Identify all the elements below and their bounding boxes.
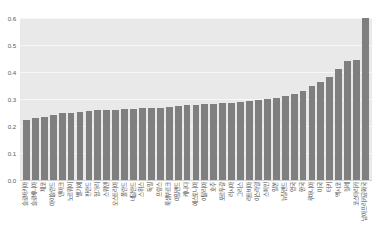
- bar: [237, 102, 244, 180]
- y-axis-tick-label: 0.1: [8, 150, 16, 157]
- bar: [201, 104, 208, 180]
- x-axis-tick-label: 러시아: [229, 182, 235, 197]
- y-axis: 0.00.10.20.30.40.50.6: [0, 18, 19, 180]
- x-axis-tick: 노르웨이: [67, 181, 76, 250]
- x-axis-tick: 이스라엘: [254, 181, 263, 250]
- x-axis-tick-label: 슬로베니아: [32, 182, 38, 206]
- x-axis-tick: 미국: [316, 181, 325, 250]
- x-axis-tick-label: 스페인: [264, 182, 270, 197]
- x-axis-tick-label: 포르투갈: [220, 182, 226, 201]
- bar: [210, 104, 217, 180]
- x-axis-tick-label: 오스트리아: [113, 182, 119, 206]
- x-axis-tick: 독일: [147, 181, 156, 250]
- x-axis-tick-label: 뉴질랜드: [282, 182, 288, 201]
- x-axis-tick: 덴마크: [58, 181, 67, 250]
- x-axis-tick: 남아프리카공화국: [361, 181, 370, 250]
- bar: [193, 105, 200, 180]
- x-axis-tick: 캐나다: [183, 181, 192, 250]
- bar: [300, 91, 307, 180]
- x-axis-tick-label: 프랑스: [157, 182, 163, 197]
- x-axis-tick: 핀란드: [84, 181, 93, 250]
- bar: [219, 103, 226, 180]
- plot-area: [20, 18, 372, 180]
- x-axis-tick: 네덜란드: [129, 181, 138, 250]
- x-axis-tick-label: 네덜란드: [131, 182, 137, 201]
- bar: [184, 105, 191, 180]
- x-axis-tick-label: 이탈리아: [202, 182, 208, 201]
- bar: [41, 117, 48, 180]
- bar: [23, 120, 30, 180]
- x-axis-tick-label: 호주: [211, 182, 217, 192]
- x-axis-tick: 영국: [290, 181, 299, 250]
- bar: [317, 82, 324, 180]
- x-axis-tick: 러시아: [227, 181, 236, 250]
- x-axis-tick: 헝가리: [93, 181, 102, 250]
- x-axis-tick-label: 아일랜드: [175, 182, 181, 201]
- x-axis-tick-label: 독일: [148, 182, 154, 192]
- x-axis: 슬로바키아슬로베니아체코아이슬란드덴마크노르웨이벨기에핀란드헝가리스웨덴오스트리…: [20, 181, 372, 250]
- x-axis-tick: 멕시코: [334, 181, 343, 250]
- y-axis-tick-label: 0.5: [8, 42, 16, 49]
- x-axis-tick-label: 칠레: [345, 182, 351, 192]
- y-axis-tick-label: 0.4: [8, 69, 16, 76]
- bar: [175, 106, 182, 180]
- x-axis-tick-label: 스위스: [139, 182, 145, 197]
- bar: [50, 115, 57, 180]
- bar: [86, 111, 93, 180]
- bar: [103, 110, 110, 180]
- x-axis-tick: 이탈리아: [200, 181, 209, 250]
- x-axis-tick: 스위스: [138, 181, 147, 250]
- x-axis-tick-label: 터키: [327, 182, 333, 192]
- y-axis-tick-label: 0.0: [8, 177, 16, 184]
- x-axis-tick-label: 이스라엘: [255, 182, 261, 201]
- x-axis-tick: 한국: [299, 181, 308, 250]
- x-axis-tick: 룩셈부르크: [165, 181, 174, 250]
- bar: [130, 109, 137, 180]
- bar: [255, 100, 262, 180]
- bar: [309, 86, 316, 181]
- bar: [139, 108, 146, 180]
- x-axis-tick-label: 영국: [291, 182, 297, 192]
- bar: [228, 103, 235, 180]
- x-axis-tick: 오스트리아: [111, 181, 120, 250]
- bar: [166, 107, 173, 180]
- bar: [273, 98, 280, 180]
- x-axis-tick-label: 노르웨이: [68, 182, 74, 201]
- bar: [32, 118, 39, 180]
- x-axis-tick-label: 룩셈부르크: [166, 182, 172, 206]
- x-axis-tick: 스페인: [263, 181, 272, 250]
- x-axis-tick-label: 슬로바키아: [24, 182, 30, 206]
- x-axis-tick: 에스토니아: [192, 181, 201, 250]
- x-axis-tick-label: 체코: [41, 182, 47, 192]
- y-axis-tick-label: 0.6: [8, 15, 16, 22]
- x-axis-tick: 일본: [272, 181, 281, 250]
- x-axis-tick: 벨기에: [76, 181, 85, 250]
- bar: [148, 108, 155, 180]
- x-axis-tick-label: 아이슬란드: [50, 182, 56, 206]
- y-axis-tick-label: 0.2: [8, 123, 16, 130]
- x-axis-tick: 뉴질랜드: [281, 181, 290, 250]
- bar: [291, 94, 298, 180]
- bar: [362, 18, 369, 180]
- x-axis-tick-label: 에스토니아: [193, 182, 199, 206]
- x-axis-tick: 프랑스: [156, 181, 165, 250]
- bar: [121, 109, 128, 180]
- x-axis-tick: 포르투갈: [218, 181, 227, 250]
- x-axis-tick-label: 캐나다: [184, 182, 190, 197]
- x-axis-tick: 아이슬란드: [49, 181, 58, 250]
- bar: [353, 60, 360, 180]
- bar: [77, 112, 84, 180]
- x-axis-tick: 슬로베니아: [31, 181, 40, 250]
- x-axis-tick-label: 헝가리: [95, 182, 101, 197]
- x-axis-tick-label: 코스타리카: [354, 182, 360, 206]
- x-axis-tick: 칠레: [343, 181, 352, 250]
- bar: [59, 113, 66, 180]
- bar: [246, 101, 253, 180]
- x-axis-tick: 라트비아: [245, 181, 254, 250]
- x-axis-tick-label: 덴마크: [59, 182, 65, 197]
- x-axis-tick: 그리스: [236, 181, 245, 250]
- x-axis-tick: 터키: [325, 181, 334, 250]
- x-axis-tick-label: 한국: [300, 182, 306, 192]
- x-axis-tick: 체코: [40, 181, 49, 250]
- x-axis-tick-label: 라트비아: [247, 182, 253, 201]
